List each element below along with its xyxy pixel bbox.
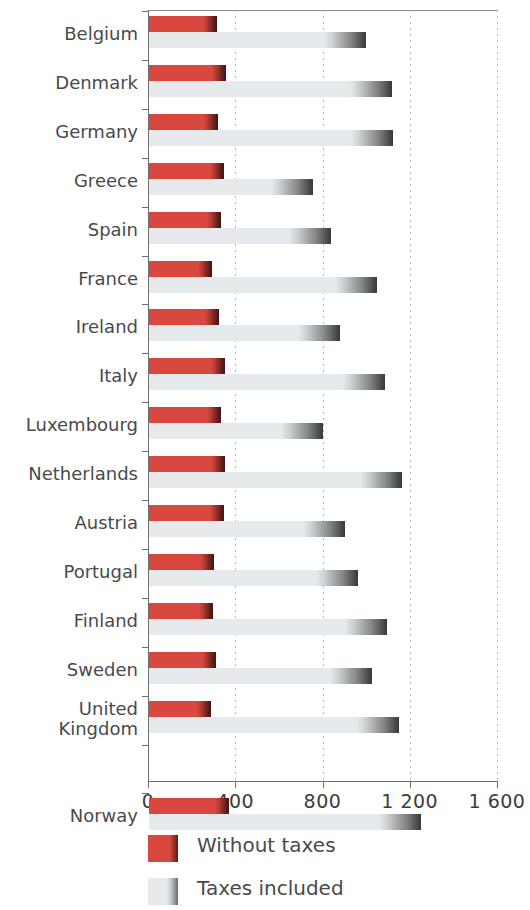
y-tick-austria — [142, 500, 149, 501]
bar-taxes-included-spain — [149, 228, 331, 244]
y-tick-greece — [142, 158, 149, 159]
x-tick-800 — [323, 781, 324, 788]
category-label-netherlands: Netherlands — [3, 464, 138, 484]
y-tick-france — [142, 256, 149, 257]
category-label-italy: Italy — [3, 366, 138, 386]
category-label-austria: Austria — [3, 513, 138, 533]
bar-taxes-included-ireland — [149, 325, 340, 341]
bar-taxes-included-germany — [149, 130, 393, 146]
legend-swatch-gray-icon — [148, 878, 178, 905]
legend-swatch-red-icon — [148, 835, 178, 862]
bar-taxes-included-norway — [149, 814, 421, 830]
gridline-800 — [323, 10, 324, 781]
category-label-portugal: Portugal — [3, 562, 138, 582]
bar-without-taxes-belgium — [149, 16, 217, 32]
bar-without-taxes-netherlands — [149, 456, 225, 472]
bar-taxes-included-belgium — [149, 32, 366, 48]
y-tick-belgium — [142, 11, 149, 12]
y-tick-netherlands — [142, 451, 149, 452]
y-tick-spain — [142, 207, 149, 208]
y-tick-luxembourg — [142, 402, 149, 403]
y-tick-germany — [142, 109, 149, 110]
bar-taxes-included-greece — [149, 179, 313, 195]
bar-taxes-included-portugal — [149, 570, 358, 586]
x-tick-0 — [148, 781, 149, 788]
bar-without-taxes-denmark — [149, 65, 226, 81]
x-tick-400 — [235, 781, 236, 788]
x-tick-label-800: 800 — [304, 790, 342, 812]
category-label-france: France — [3, 269, 138, 289]
x-tick-label-1600: 1 600 — [469, 790, 526, 812]
bar-without-taxes-norway — [149, 798, 229, 814]
bar-without-taxes-portugal — [149, 554, 214, 570]
category-label-norway: Norway — [3, 806, 138, 826]
bar-without-taxes-austria — [149, 505, 224, 521]
bar-without-taxes-finland — [149, 603, 213, 619]
bar-without-taxes-united-kingdom — [149, 701, 211, 717]
bar-without-taxes-greece — [149, 163, 224, 179]
y-tick-united-kingdom — [142, 696, 149, 697]
gridline-1600 — [497, 10, 498, 781]
bar-taxes-included-netherlands — [149, 472, 402, 488]
legend-label-taxes-included: Taxes included — [197, 876, 344, 900]
gridline-400 — [235, 10, 236, 781]
x-tick-1200 — [410, 781, 411, 788]
category-label-germany: Germany — [3, 122, 138, 142]
x-tick-label-1200: 1 200 — [381, 790, 438, 812]
y-tick-italy — [142, 353, 149, 354]
y-tick-denmark — [142, 60, 149, 61]
category-label-united-kingdom: United Kingdom — [3, 699, 138, 739]
bar-taxes-included-denmark — [149, 81, 392, 97]
bar-taxes-included-united-kingdom — [149, 717, 399, 733]
bar-without-taxes-italy — [149, 358, 225, 374]
x-tick-1600 — [497, 781, 498, 788]
y-tick-blank — [142, 745, 149, 746]
category-label-luxembourg: Luxembourg — [3, 415, 138, 435]
gridline-1200 — [410, 10, 411, 781]
bar-without-taxes-spain — [149, 212, 221, 228]
category-label-spain: Spain — [3, 220, 138, 240]
bar-without-taxes-luxembourg — [149, 407, 221, 423]
y-tick-ireland — [142, 304, 149, 305]
category-label-greece: Greece — [3, 171, 138, 191]
bar-taxes-included-sweden — [149, 668, 372, 684]
bar-taxes-included-luxembourg — [149, 423, 323, 439]
bar-without-taxes-ireland — [149, 309, 219, 325]
category-label-sweden: Sweden — [3, 660, 138, 680]
bar-taxes-included-austria — [149, 521, 345, 537]
horizontal-bar-chart: 04008001 2001 600 BelgiumDenmarkGermanyG… — [0, 0, 530, 910]
category-label-finland: Finland — [3, 611, 138, 631]
y-tick-portugal — [142, 549, 149, 550]
bar-taxes-included-italy — [149, 374, 385, 390]
y-tick-finland — [142, 598, 149, 599]
bar-without-taxes-france — [149, 261, 212, 277]
bar-taxes-included-finland — [149, 619, 387, 635]
bar-without-taxes-sweden — [149, 652, 216, 668]
bar-without-taxes-germany — [149, 114, 218, 130]
legend-label-without-taxes: Without taxes — [197, 833, 336, 857]
category-label-belgium: Belgium — [3, 24, 138, 44]
y-tick-sweden — [142, 647, 149, 648]
category-label-ireland: Ireland — [3, 317, 138, 337]
y-tick-norway — [142, 793, 149, 794]
bar-taxes-included-france — [149, 277, 377, 293]
category-label-denmark: Denmark — [3, 73, 138, 93]
